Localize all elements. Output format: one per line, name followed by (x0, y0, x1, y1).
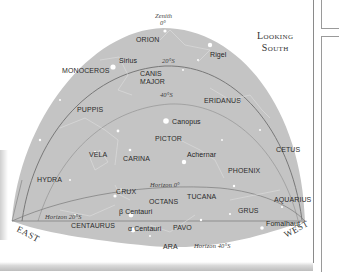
horizon40-marker: Horizon 40°S (194, 242, 230, 249)
horizon0-marker: Horizon 0° (150, 181, 180, 188)
constellation-phoenix: PHOENIX (228, 167, 260, 174)
chart-title: Looking South (257, 30, 294, 54)
lat20-marker: 20°S (162, 57, 175, 64)
title-line-1: Looking (257, 30, 294, 42)
star-canopus: Canopus (172, 118, 201, 125)
star-achernar: Achernar (187, 151, 216, 158)
star-rigel: Rigel (210, 51, 226, 58)
star-alpha-centauri: α Centauri (128, 225, 161, 232)
lat40-marker: 40°S (160, 91, 173, 98)
constellation-cetus: CETUS (276, 146, 300, 153)
constellation-tucana: TUCANA (187, 193, 216, 200)
horizon20-marker: Horizon 20°S (45, 213, 81, 220)
star-beta-centauri: β Centauri (119, 208, 152, 215)
constellation-aquarius: AQUARIUS (274, 196, 311, 203)
star-sirius: Sirius (119, 57, 137, 64)
constellation-crux: CRUX (116, 188, 136, 195)
page-frame (313, 0, 338, 271)
page-bottom-edge (0, 262, 313, 271)
zenith-label: Zenith (155, 12, 172, 19)
constellation-pavo: PAVO (173, 224, 192, 231)
constellation-hydra: HYDRA (37, 176, 62, 183)
constellation-pictor: PICTOR (155, 135, 182, 142)
zenith-value: 0° (160, 19, 166, 26)
star-fomalhaut: Fomalhaut (266, 220, 300, 227)
constellation-eridanus: ERIDANUS (204, 97, 241, 104)
constellation-ara: ARA (163, 243, 178, 250)
title-line-2: South (257, 42, 294, 54)
frame-divider (313, 0, 314, 263)
constellation-octans: OCTANS (149, 198, 178, 205)
constellation-canis-major: CANIS MAJOR (140, 70, 176, 86)
constellation-grus: GRUS (238, 207, 259, 214)
constellation-orion: ORION (136, 36, 159, 43)
constellation-vela: VELA (89, 151, 107, 158)
frame-box-top (321, 0, 339, 29)
constellation-monoceros: MONOCEROS (62, 67, 110, 74)
frame-box-bottom (321, 36, 339, 272)
constellation-carina: CARINA (123, 155, 150, 162)
constellation-puppis: PUPPIS (77, 106, 103, 113)
constellation-centaurus: CENTAURUS (71, 222, 115, 229)
